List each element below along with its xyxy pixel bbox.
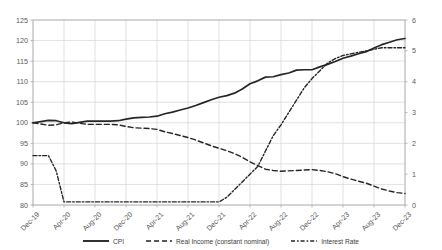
- right-axis-tick-1: 1: [412, 170, 432, 179]
- right-axis-tick-5: 5: [412, 46, 432, 55]
- left-axis-tick-120: 120: [4, 36, 28, 45]
- left-axis-tick-95: 95: [4, 139, 28, 148]
- left-axis-tick-85: 85: [4, 180, 28, 189]
- left-axis-tick-125: 125: [4, 16, 28, 25]
- legend-item-0[interactable]: CPI: [83, 238, 124, 245]
- gridlines: [33, 20, 405, 205]
- right-axis-tick-0: 0: [412, 201, 432, 210]
- left-axis-tick-90: 90: [4, 159, 28, 168]
- right-axis-tick-3: 3: [412, 108, 432, 117]
- legend-item-1[interactable]: Real Income (constant nominal): [146, 238, 269, 245]
- left-axis-tick-110: 110: [4, 77, 28, 86]
- solid-line-key: [83, 238, 109, 244]
- right-axis-tick-2: 2: [412, 139, 432, 148]
- left-axis-tick-105: 105: [4, 98, 28, 107]
- left-axis-tick-80: 80: [4, 201, 28, 210]
- dash-dot-line-key: [291, 238, 317, 244]
- legend-item-2[interactable]: Interest Rate: [291, 238, 359, 245]
- dashed-line-key: [146, 238, 172, 244]
- legend-label: CPI: [113, 238, 124, 245]
- left-axis-tick-115: 115: [4, 57, 28, 66]
- right-axis-tick-4: 4: [412, 77, 432, 86]
- left-axis-tick-100: 100: [4, 118, 28, 127]
- legend-label: Real Income (constant nominal): [176, 238, 269, 245]
- cpi-real-income-interest-rate-chart: 80859095100105110115120125 0123456 Dec-1…: [0, 0, 442, 250]
- right-axis-tick-6: 6: [412, 16, 432, 25]
- chart-legend: CPIReal Income (constant nominal)Interes…: [0, 234, 442, 248]
- legend-label: Interest Rate: [321, 238, 359, 245]
